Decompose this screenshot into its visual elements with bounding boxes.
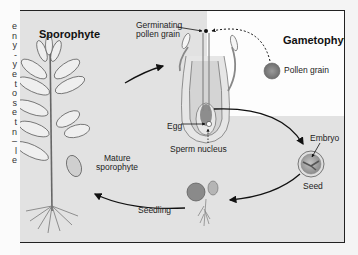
arrow-to-flower xyxy=(125,66,163,83)
mature-sporophyte-plant-icon xyxy=(20,35,91,233)
seed-label: Seed xyxy=(303,182,323,192)
arrow-to-seedling xyxy=(230,174,300,200)
flower-ovule-icon xyxy=(180,32,239,143)
germinating-pollen-label-line2: pollen grain xyxy=(136,30,180,40)
embryo-label: Embryo xyxy=(310,134,339,144)
pollen-grain-icon xyxy=(264,63,280,79)
seedling-label: Seedling xyxy=(138,206,171,216)
sporophyte-title: Sporophyte xyxy=(39,28,100,40)
seed-icon xyxy=(298,151,324,177)
egg-label: Egg xyxy=(167,122,182,132)
cut-off-text-column: e n y - y e t o s e t n – l e xyxy=(3,22,17,166)
seedling-icon xyxy=(187,181,218,226)
gametophyte-title: Gametophyte xyxy=(283,34,345,46)
pollen-grain-label: Pollen grain xyxy=(284,66,329,76)
pollen-tip-dot xyxy=(204,29,208,33)
page-text-fragment: e n y - y e t o s e t n – l e xyxy=(0,0,20,255)
life-cycle-diagram: Sporophyte Gametophyte Germinating polle… xyxy=(20,10,345,243)
sperm-nucleus-label: Sperm nucleus xyxy=(170,145,227,155)
text-char: e xyxy=(3,156,17,166)
mature-sporophyte-label-line2: sporophyte xyxy=(96,163,138,173)
